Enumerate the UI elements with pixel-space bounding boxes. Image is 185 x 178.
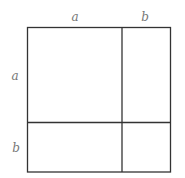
square-diagram: a b a b: [0, 0, 185, 178]
top-label-a: a: [71, 10, 78, 24]
left-label-a: a: [11, 69, 18, 83]
outer-square: [28, 28, 171, 173]
left-label-b: b: [12, 141, 20, 155]
top-label-b: b: [141, 10, 149, 24]
